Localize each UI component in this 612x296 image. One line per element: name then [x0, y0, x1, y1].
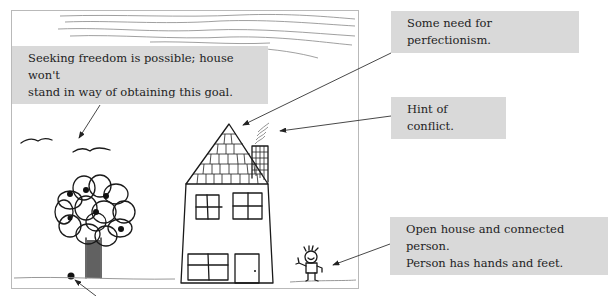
annotation-perfectionism: Some need for perfectionism. — [391, 11, 579, 53]
annotation-line: stand in way of obtaining this goal. — [28, 84, 252, 101]
windows — [188, 193, 262, 280]
ground-line — [14, 277, 356, 282]
annotation-freedom: Seeking freedom is possible; house won't… — [12, 46, 268, 104]
annotation-open-house: Open house and connected person. Person … — [390, 217, 608, 275]
house — [181, 123, 273, 283]
annotation-line: Seeking freedom is possible; house won't — [28, 50, 252, 84]
chimney — [252, 146, 268, 182]
fallen-fruit — [68, 273, 75, 280]
door — [235, 254, 259, 283]
tree — [55, 175, 135, 278]
birds — [21, 139, 110, 152]
annotation-line: Person has hands and feet. — [406, 255, 592, 272]
annotation-conflict: Hint of conflict. — [391, 97, 506, 139]
person — [296, 246, 322, 281]
chimney-smoke — [255, 123, 269, 144]
annotation-line: Some need for perfectionism. — [407, 15, 563, 49]
annotation-line: Open house and connected person. — [406, 221, 592, 255]
annotation-line: Hint of conflict. — [407, 101, 490, 135]
